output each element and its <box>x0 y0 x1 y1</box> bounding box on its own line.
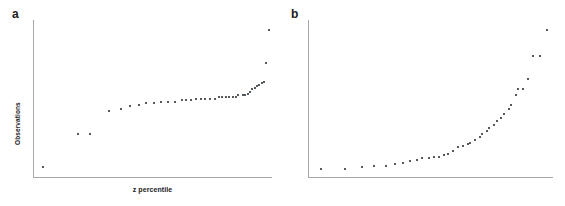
data-point <box>416 159 418 161</box>
data-point <box>77 133 79 135</box>
figure-container: a Observations z percentile b Observatio… <box>0 0 565 206</box>
data-point <box>221 96 223 98</box>
data-point <box>433 156 435 158</box>
data-point <box>153 102 155 104</box>
y-axis-line-a <box>33 20 34 178</box>
data-point <box>457 146 459 148</box>
plot-area-a <box>33 20 272 178</box>
data-point <box>428 157 430 159</box>
data-point <box>438 156 440 158</box>
data-point <box>42 166 44 168</box>
data-point <box>195 98 197 100</box>
data-point <box>108 110 110 112</box>
data-point <box>185 99 187 101</box>
panel-a: a Observations z percentile <box>0 0 283 206</box>
y-axis-label-a: Observations <box>14 102 21 145</box>
data-point <box>263 81 265 83</box>
data-point <box>496 120 498 122</box>
data-point <box>160 101 162 103</box>
data-point <box>237 94 239 96</box>
data-point <box>493 124 495 126</box>
data-point <box>486 130 488 132</box>
data-point <box>373 165 375 167</box>
data-point <box>510 104 512 106</box>
data-point <box>503 113 505 115</box>
data-point <box>469 142 471 144</box>
data-point <box>89 133 91 135</box>
data-point <box>120 108 122 110</box>
panel-b: b Observation z percentile <box>283 0 565 206</box>
data-point <box>409 160 411 162</box>
data-point <box>500 117 502 119</box>
plot-area-b <box>308 20 553 178</box>
data-point <box>462 145 464 147</box>
data-point <box>249 91 251 93</box>
data-point <box>421 157 423 159</box>
x-axis-line-b <box>308 177 553 178</box>
data-point <box>361 166 363 168</box>
data-point <box>209 98 211 100</box>
panel-letter-b: b <box>291 8 298 20</box>
data-point <box>522 88 524 90</box>
data-point <box>344 168 346 170</box>
data-point <box>204 98 206 100</box>
data-point <box>443 154 445 156</box>
data-point <box>508 108 510 110</box>
data-point <box>145 102 147 104</box>
data-point <box>394 163 396 165</box>
data-point <box>539 55 541 57</box>
data-point <box>481 133 483 135</box>
data-point <box>517 88 519 90</box>
data-point <box>532 55 534 57</box>
x-axis-line-a <box>33 177 272 178</box>
data-point <box>474 139 476 141</box>
data-point <box>167 101 169 103</box>
data-point <box>265 62 267 64</box>
data-point <box>129 105 131 107</box>
data-point <box>447 153 449 155</box>
data-point <box>452 150 454 152</box>
y-axis-line-b <box>308 20 309 178</box>
x-axis-label-a: z percentile <box>33 186 272 193</box>
data-point <box>488 127 490 129</box>
data-point <box>320 168 322 170</box>
data-point <box>515 94 517 96</box>
data-point <box>479 136 481 138</box>
panel-letter-a: a <box>12 8 19 20</box>
data-point <box>174 101 176 103</box>
data-point <box>200 98 202 100</box>
data-point <box>228 96 230 98</box>
data-point <box>138 104 140 106</box>
data-point <box>268 29 270 31</box>
data-point <box>546 29 548 31</box>
data-point <box>385 165 387 167</box>
data-point <box>190 99 192 101</box>
data-point <box>402 162 404 164</box>
data-point <box>181 99 183 101</box>
data-point <box>214 98 216 100</box>
data-point <box>527 78 529 80</box>
